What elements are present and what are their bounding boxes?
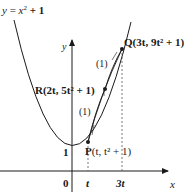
y-tick-1: 1 [63, 146, 69, 158]
x-axis-label: x [169, 178, 175, 190]
ratio-label-rq: (1) [96, 58, 108, 70]
x-tick-3t: 3t [115, 177, 126, 189]
point-p [86, 140, 90, 144]
y-axis-label: y [61, 41, 67, 52]
point-r [103, 87, 107, 91]
ratio-label-pr: (1) [79, 106, 91, 118]
parabola-diagram: y = x2 + 1 y x 0 1 t 3t P(t, t² + 1) R(2… [0, 0, 186, 196]
point-r-label: R(2t, 5t² + 1) [35, 84, 95, 97]
diagram-svg: y = x2 + 1 y x 0 1 t 3t P(t, t² + 1) R(2… [0, 0, 186, 196]
origin-label: 0 [63, 177, 69, 189]
point-q-label: Q(3t, 9t² + 1) [124, 36, 185, 49]
curve-label: y = x2 + 1 [1, 4, 44, 16]
point-p-label: P(t, t² + 1) [85, 145, 132, 158]
x-tick-t: t [86, 177, 90, 189]
